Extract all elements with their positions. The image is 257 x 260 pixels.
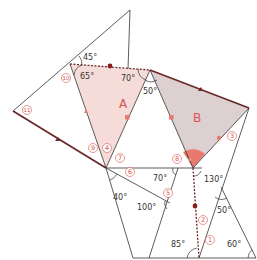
region-b-label: B [193, 111, 201, 125]
angle-130: 130° [204, 175, 223, 184]
dot-marker-b [217, 136, 221, 140]
square-marker-b [169, 115, 174, 120]
circled-number-6: 6 [128, 168, 132, 176]
circled-number-4: 4 [105, 144, 109, 152]
circled-number-5: 5 [166, 189, 170, 197]
angle-70-mid: 70° [153, 174, 167, 183]
square-marker-a [125, 115, 130, 120]
angle-40: 40° [113, 193, 127, 202]
angle-70-top: 70° [121, 74, 135, 83]
dot-marker-bottom [193, 204, 198, 209]
angle-60: 60° [227, 240, 241, 249]
circled-number-10: 10 [63, 75, 70, 81]
circled-number-11: 11 [24, 107, 31, 113]
angle-50-low: 50° [217, 206, 231, 215]
angle-50-top: 50° [143, 87, 157, 96]
circled-number-1: 1 [208, 236, 212, 244]
angle-45: 45° [83, 53, 97, 62]
dot-marker-top [108, 64, 113, 69]
angle-100: 100° [137, 203, 156, 212]
circled-number-8: 8 [175, 155, 179, 163]
circled-number-9: 9 [91, 144, 95, 152]
angle-b-unknown: ?° [185, 157, 191, 164]
geometry-diagram: A B 45° 65° 70° 50° ?° 130° 40° 70° 100°… [0, 0, 257, 260]
region-a-label: A [119, 97, 128, 111]
angle-85: 85° [171, 240, 185, 249]
circled-number-7: 7 [118, 154, 122, 162]
circled-number-3: 3 [230, 132, 234, 140]
circled-number-2: 2 [201, 216, 205, 224]
angle-65: 65° [80, 72, 94, 81]
